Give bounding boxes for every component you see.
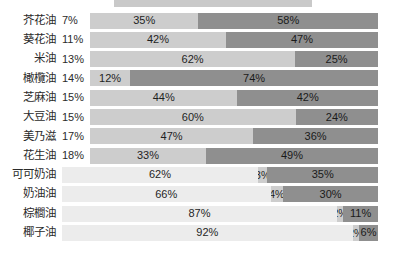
chart-row: 葵花油11%42%47% bbox=[0, 30, 396, 49]
legend-clipped-bar bbox=[114, 0, 312, 7]
row-lead-percent: 7% bbox=[62, 15, 90, 26]
segment-value-label: 47% bbox=[161, 131, 183, 142]
bar-segment-poly: 4% bbox=[271, 186, 284, 202]
stacked-bar: 33%49% bbox=[90, 148, 378, 164]
bar-segment-mono: 36% bbox=[253, 128, 378, 144]
bar-segment-mono: 49% bbox=[206, 148, 378, 164]
segment-value-label: 60% bbox=[182, 112, 204, 123]
chart-row: 美乃滋17%47%36% bbox=[0, 127, 396, 146]
row-lead-percent: 15% bbox=[62, 112, 90, 123]
chart-row: 芥花油7%35%58% bbox=[0, 11, 396, 30]
segment-value-label: 36% bbox=[305, 131, 327, 142]
chart-row: 可可奶油62%3%35% bbox=[0, 165, 396, 184]
row-label: 花生油 bbox=[0, 150, 62, 162]
bar-segment-mono: 35% bbox=[267, 167, 378, 183]
segment-value-label: 3% bbox=[258, 170, 267, 181]
bar-segment-poly: 12% bbox=[90, 70, 130, 86]
row-label: 椰子油 bbox=[0, 227, 62, 239]
bar-segment-poly: 42% bbox=[90, 32, 226, 48]
segment-value-label: 24% bbox=[326, 112, 348, 123]
row-label: 米油 bbox=[0, 53, 62, 65]
stacked-bar: 60%24% bbox=[90, 109, 378, 125]
segment-value-label: 6% bbox=[361, 227, 377, 238]
row-label: 棕櫚油 bbox=[0, 208, 62, 220]
segment-value-label: 25% bbox=[326, 54, 348, 65]
stacked-bar: 62%3%35% bbox=[62, 167, 378, 183]
stacked-bar-chart: 芥花油7%35%58%葵花油11%42%47%米油13%62%25%橄欖油14%… bbox=[0, 0, 396, 258]
stacked-bar: 35%58% bbox=[90, 13, 378, 29]
stacked-bar: 87%2%11% bbox=[62, 206, 378, 222]
stacked-bar: 66%4%30% bbox=[62, 186, 378, 202]
bar-segment-mono: 6% bbox=[359, 225, 378, 241]
segment-value-label: 30% bbox=[320, 189, 342, 200]
row-label: 美乃滋 bbox=[0, 131, 62, 143]
segment-value-label: 58% bbox=[277, 15, 299, 26]
segment-value-label: 33% bbox=[137, 150, 159, 161]
segment-value-label: 74% bbox=[243, 73, 265, 84]
chart-row: 奶油油66%4%30% bbox=[0, 185, 396, 204]
bar-segment-sat: 87% bbox=[62, 206, 337, 222]
segment-value-label: 35% bbox=[312, 169, 334, 180]
row-label: 奶油油 bbox=[0, 188, 62, 200]
bar-segment-poly: 62% bbox=[90, 51, 295, 67]
segment-value-label: 42% bbox=[297, 92, 319, 103]
chart-row: 橄欖油14%12%74% bbox=[0, 69, 396, 88]
bar-segment-mono: 58% bbox=[198, 13, 378, 29]
stacked-bar: 92%2%6% bbox=[62, 225, 378, 241]
segment-value-label: 44% bbox=[153, 92, 175, 103]
segment-value-label: 11% bbox=[350, 208, 371, 219]
row-lead-percent: 18% bbox=[62, 150, 90, 161]
chart-row: 椰子油92%2%6% bbox=[0, 223, 396, 242]
segment-value-label: 47% bbox=[291, 34, 313, 45]
bar-segment-poly: 47% bbox=[90, 128, 253, 144]
segment-value-label: 12% bbox=[99, 73, 121, 84]
segment-value-label: 42% bbox=[147, 34, 169, 45]
row-lead-percent: 13% bbox=[62, 54, 90, 65]
segment-value-label: 66% bbox=[155, 189, 177, 200]
row-label: 芥花油 bbox=[0, 15, 62, 27]
bar-segment-sat: 62% bbox=[62, 167, 258, 183]
segment-value-label: 92% bbox=[196, 227, 218, 238]
segment-value-label: 62% bbox=[182, 54, 204, 65]
row-label: 大豆油 bbox=[0, 111, 62, 123]
chart-row: 棕櫚油87%2%11% bbox=[0, 204, 396, 223]
bar-segment-poly: 33% bbox=[90, 148, 206, 164]
chart-row: 芝麻油15%44%42% bbox=[0, 88, 396, 107]
bar-segment-mono: 47% bbox=[226, 32, 378, 48]
row-label: 芝麻油 bbox=[0, 92, 62, 104]
bar-segment-poly: 3% bbox=[258, 167, 267, 183]
bar-segment-sat: 66% bbox=[62, 186, 271, 202]
bar-segment-mono: 74% bbox=[130, 70, 378, 86]
row-label: 葵花油 bbox=[0, 34, 62, 46]
stacked-bar: 62%25% bbox=[90, 51, 378, 67]
bar-segment-mono: 30% bbox=[283, 186, 378, 202]
bar-segment-mono: 24% bbox=[296, 109, 378, 125]
stacked-bar: 12%74% bbox=[90, 70, 378, 86]
stacked-bar: 44%42% bbox=[90, 90, 378, 106]
chart-row: 花生油18%33%49% bbox=[0, 146, 396, 165]
stacked-bar: 47%36% bbox=[90, 128, 378, 144]
bar-segment-poly: 60% bbox=[90, 109, 296, 125]
segment-value-label: 35% bbox=[133, 15, 155, 26]
row-lead-percent: 15% bbox=[62, 92, 90, 103]
stacked-bar: 42%47% bbox=[90, 32, 378, 48]
segment-value-label: 62% bbox=[149, 169, 171, 180]
bar-segment-poly: 44% bbox=[90, 90, 237, 106]
row-lead-percent: 14% bbox=[62, 73, 90, 84]
bar-segment-poly: 35% bbox=[90, 13, 198, 29]
bar-segment-mono: 11% bbox=[343, 206, 378, 222]
segment-value-label: 49% bbox=[281, 150, 303, 161]
segment-value-label: 87% bbox=[188, 208, 210, 219]
bar-segment-mono: 25% bbox=[295, 51, 378, 67]
row-label: 橄欖油 bbox=[0, 73, 62, 85]
row-lead-percent: 11% bbox=[62, 34, 90, 45]
row-lead-percent: 17% bbox=[62, 131, 90, 142]
row-label: 可可奶油 bbox=[0, 169, 62, 181]
segment-value-label: 4% bbox=[271, 189, 284, 200]
chart-row: 米油13%62%25% bbox=[0, 50, 396, 69]
bar-segment-sat: 92% bbox=[62, 225, 353, 241]
chart-row: 大豆油15%60%24% bbox=[0, 108, 396, 127]
bar-segment-mono: 42% bbox=[237, 90, 378, 106]
